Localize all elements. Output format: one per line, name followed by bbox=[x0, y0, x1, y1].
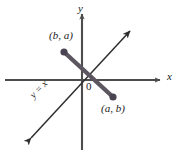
point-b-a-marker bbox=[60, 48, 67, 55]
coordinate-plane-figure: (b, a) (a, b) y = x x y 0 bbox=[0, 0, 178, 154]
y-axis-label: y bbox=[78, 3, 83, 14]
x-axis-label: x bbox=[167, 71, 172, 82]
point-label-b-a: (b, a) bbox=[49, 30, 73, 41]
point-a-b-marker bbox=[109, 93, 116, 100]
origin-label: 0 bbox=[86, 81, 92, 92]
point-label-a-b: (a, b) bbox=[101, 103, 125, 114]
figure-canvas bbox=[0, 0, 178, 154]
